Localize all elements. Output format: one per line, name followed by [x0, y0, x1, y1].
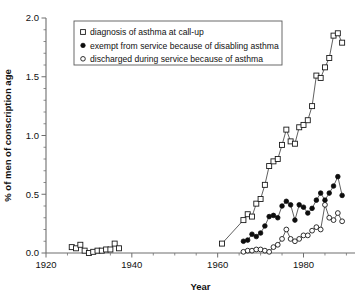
data-point	[336, 174, 341, 179]
y-axis-tick-label: 0.5	[26, 189, 39, 200]
data-point	[340, 219, 345, 224]
data-point	[271, 213, 276, 218]
y-axis-tick-label: 1.0	[26, 130, 39, 141]
data-point	[78, 242, 83, 247]
y-axis-tick-label: 0.0	[26, 247, 39, 258]
series-line	[243, 177, 342, 242]
data-point	[318, 227, 323, 232]
data-point	[310, 104, 315, 109]
data-point	[340, 40, 345, 45]
data-point	[263, 224, 268, 229]
data-point	[280, 204, 285, 209]
data-point	[305, 118, 310, 123]
data-point	[275, 242, 280, 247]
data-point	[322, 65, 327, 70]
y-axis-title: % of men of conscription age	[2, 69, 13, 202]
data-point	[314, 198, 319, 203]
data-point	[331, 218, 336, 223]
data-point	[301, 122, 306, 127]
data-point	[293, 218, 298, 223]
data-point	[280, 142, 285, 147]
series-line	[222, 220, 243, 244]
legend-label: exempt from service because of disabling…	[90, 41, 279, 51]
data-point	[297, 203, 302, 208]
asthma-trend-chart: 0.00.51.01.52.01920194019601980Year% of …	[0, 0, 361, 296]
data-point	[310, 228, 315, 233]
data-point	[267, 214, 272, 219]
data-point	[241, 239, 246, 244]
data-point	[323, 202, 328, 207]
data-point	[288, 203, 293, 208]
y-axis-tick-label: 2.0	[26, 12, 39, 23]
data-point	[327, 191, 332, 196]
data-point	[275, 157, 280, 162]
series-2	[241, 202, 345, 254]
data-point	[108, 247, 113, 252]
data-point	[305, 233, 310, 238]
chart-canvas: 0.00.51.01.52.01920194019601980Year% of …	[0, 0, 361, 296]
data-point	[258, 231, 263, 236]
data-point	[335, 211, 340, 216]
x-axis-title: Year	[190, 281, 210, 292]
open-square-icon	[81, 30, 86, 35]
data-point	[305, 211, 310, 216]
data-point	[241, 218, 246, 223]
y-axis-tick-label: 1.5	[26, 71, 39, 82]
data-point	[116, 246, 121, 251]
series-1	[241, 174, 344, 243]
legend-label: discharged during service because of ast…	[90, 54, 263, 64]
x-axis-tick-label: 1940	[121, 259, 142, 270]
data-point	[284, 127, 289, 132]
data-point	[284, 227, 289, 232]
filled-circle-icon	[81, 43, 85, 47]
legend: diagnosis of asthma at call-upexempt fro…	[74, 21, 282, 65]
data-point	[331, 184, 336, 189]
legend-label: diagnosis of asthma at call-up	[90, 27, 204, 37]
x-axis-tick-label: 1980	[293, 259, 314, 270]
data-point	[254, 234, 259, 239]
data-point	[318, 75, 323, 80]
data-point	[327, 55, 332, 60]
data-point	[292, 141, 297, 146]
data-point	[318, 191, 323, 196]
data-point	[219, 241, 224, 246]
data-point	[323, 198, 328, 203]
data-point	[267, 249, 272, 254]
data-point	[335, 31, 340, 36]
data-point	[258, 196, 263, 201]
data-point	[250, 214, 255, 219]
x-axis-tick-label: 1960	[207, 259, 228, 270]
data-point	[297, 237, 302, 242]
data-point	[245, 238, 250, 243]
x-axis-tick-label: 1920	[35, 259, 56, 270]
data-point	[280, 237, 285, 242]
data-point	[275, 215, 280, 220]
data-point	[301, 205, 306, 210]
open-circle-icon	[81, 57, 86, 62]
data-point	[340, 193, 345, 198]
data-point	[262, 182, 267, 187]
data-point	[250, 232, 255, 237]
data-point	[284, 199, 289, 204]
data-point	[310, 206, 315, 211]
